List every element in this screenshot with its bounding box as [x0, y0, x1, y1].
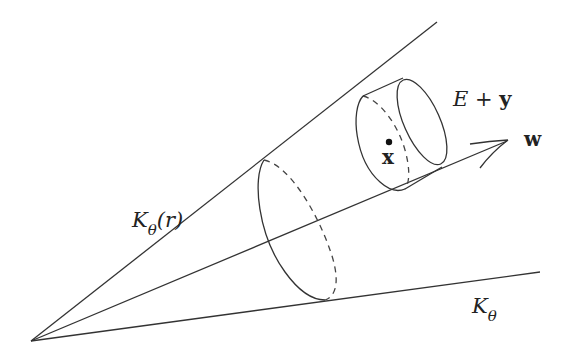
label-k: K — [472, 294, 488, 318]
cylinder-front-ellipse — [387, 73, 457, 172]
label-e: E — [453, 87, 468, 111]
label-x: x — [382, 147, 394, 167]
label-theta-sub: θ — [148, 221, 157, 239]
label-k-theta: Kθ — [472, 296, 497, 317]
label-theta-sub: θ — [488, 307, 497, 325]
cylinder-bottom-edge — [405, 167, 442, 189]
cone-diagram: Kθ(r) Kθ E + y x w — [0, 0, 574, 357]
label-e-plus-y: E + y — [453, 88, 512, 110]
label-w: w — [524, 129, 541, 149]
cylinder-back-ellipse-solid — [356, 96, 405, 191]
label-y: y — [499, 86, 511, 111]
cross-section-front-arc — [258, 160, 325, 300]
label-k: K — [132, 208, 148, 232]
label-plus: + — [468, 87, 499, 111]
label-r-suffix: (r) — [157, 208, 183, 232]
label-k-theta-r: Kθ(r) — [132, 210, 183, 231]
lower-cone-boundary — [31, 272, 540, 341]
upper-cone-boundary — [31, 22, 437, 341]
cross-section-back-arc — [264, 160, 336, 300]
